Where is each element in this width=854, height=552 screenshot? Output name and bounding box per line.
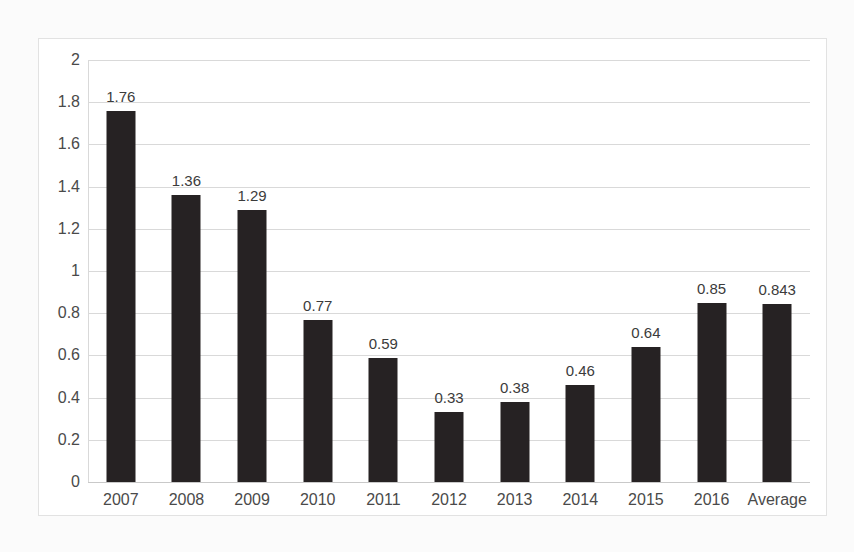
bar-chart: 1.761.361.290.770.590.330.380.460.640.85… [0, 0, 854, 552]
x-axis-tick-label: 2013 [497, 492, 533, 508]
x-axis-tick-label: 2009 [234, 492, 270, 508]
x-axis-tick-label: 2011 [366, 492, 400, 508]
x-axis-tick-labels: 2007200820092010201120122013201420152016… [0, 0, 854, 552]
x-axis-tick-label: 2014 [562, 492, 598, 508]
x-axis-tick-label: 2015 [628, 492, 664, 508]
x-axis-tick-label: 2010 [300, 492, 336, 508]
x-axis-tick-label: 2008 [169, 492, 205, 508]
x-axis-tick-label: 2007 [103, 492, 139, 508]
x-axis-tick-label: Average [748, 492, 807, 508]
x-axis-tick-label: 2012 [431, 492, 467, 508]
x-axis-tick-label: 2016 [694, 492, 730, 508]
